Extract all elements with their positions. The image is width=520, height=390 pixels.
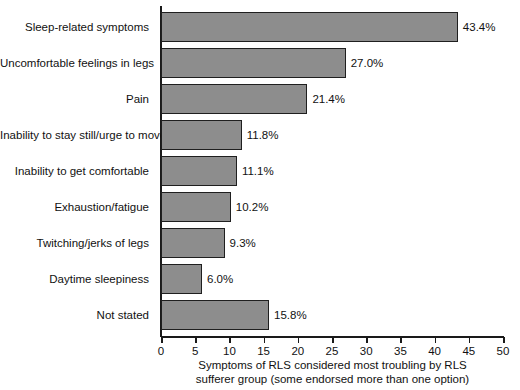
category-label: Twitching/jerks of legs — [0, 228, 155, 258]
category-label: Inability to get comfortable — [0, 156, 155, 186]
bar — [161, 192, 231, 222]
category-label: Uncomfortable feelings in legs — [0, 48, 155, 78]
x-tick — [161, 337, 163, 343]
bar-row: 27.0% — [161, 48, 503, 78]
bar-row: 15.8% — [161, 300, 503, 330]
bar — [161, 228, 225, 258]
bar-row: 9.3% — [161, 228, 503, 258]
caption-line-1: Symptoms of RLS considered most troublin… — [161, 359, 504, 373]
x-tick — [469, 337, 471, 343]
bar-row: 21.4% — [161, 84, 503, 114]
bar — [161, 156, 237, 186]
x-tick — [332, 337, 334, 343]
category-label: Daytime sleepiness — [0, 264, 155, 294]
bar-chart: Sleep-related symptomsUncomfortable feel… — [0, 0, 520, 390]
bar — [161, 264, 202, 294]
bar-row: 11.8% — [161, 120, 503, 150]
bar-value-label: 6.0% — [207, 264, 233, 294]
caption-line-2: sufferer group (some endorsed more than … — [161, 373, 504, 387]
category-label: Not stated — [0, 300, 155, 330]
bar-row: 11.1% — [161, 156, 503, 186]
x-tick — [435, 337, 437, 343]
category-label: Inability to stay still/urge to move — [0, 120, 155, 150]
bar-row: 43.4% — [161, 12, 503, 42]
bar — [161, 120, 242, 150]
bar-row: 6.0% — [161, 264, 503, 294]
bar — [161, 12, 458, 42]
x-tick — [264, 337, 266, 343]
bar-value-label: 43.4% — [463, 12, 496, 42]
bar — [161, 48, 346, 78]
x-tick — [366, 337, 368, 343]
x-tick — [503, 337, 505, 343]
x-axis-caption: Symptoms of RLS considered most troublin… — [161, 359, 504, 386]
category-label: Exhaustion/fatigue — [0, 192, 155, 222]
bar-value-label: 27.0% — [351, 48, 384, 78]
bar — [161, 300, 269, 330]
bar-value-label: 11.8% — [247, 120, 279, 150]
bar-value-label: 15.8% — [274, 300, 307, 330]
bar-value-label: 9.3% — [230, 228, 256, 258]
bar-value-label: 10.2% — [236, 192, 269, 222]
bar-value-label: 11.1% — [242, 156, 274, 186]
bar — [161, 84, 307, 114]
x-tick — [298, 337, 300, 343]
x-tick-label: 50 — [483, 345, 520, 357]
category-label: Sleep-related symptoms — [0, 12, 155, 42]
bars-layer: 43.4%27.0%21.4%11.8%11.1%10.2%9.3%6.0%15… — [161, 6, 503, 337]
x-tick — [195, 337, 197, 343]
bar-value-label: 21.4% — [312, 84, 345, 114]
x-tick — [229, 337, 231, 343]
category-label: Pain — [0, 84, 155, 114]
bar-row: 10.2% — [161, 192, 503, 222]
x-tick — [400, 337, 402, 343]
